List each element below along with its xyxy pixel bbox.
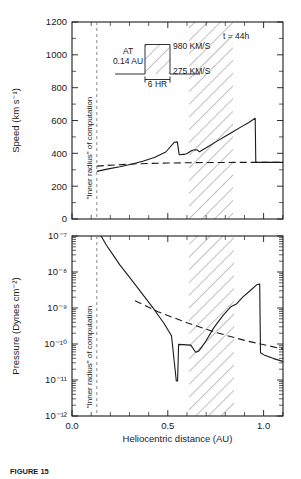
speed-ytick-6: 1200	[46, 16, 67, 27]
speed-y-tick-labels: 0 200 400 600 800 1000 1200	[46, 16, 67, 224]
speed-ytick-2: 400	[51, 148, 67, 159]
speed-ytick-4: 800	[51, 82, 67, 93]
pressure-ytick-4: 10⁻⁸	[47, 266, 67, 277]
speed-hatched-region	[189, 22, 233, 219]
pressure-y-ticks	[72, 236, 283, 416]
xtick-2: 1.0	[257, 420, 270, 431]
speed-axis-label: Speed (km s⁻¹)	[10, 88, 21, 153]
pressure-ytick-3: 10⁻⁹	[47, 302, 67, 313]
inner-radius-label-top: "Inner radius" of computation	[85, 97, 94, 200]
speed-ytick-0: 0	[62, 213, 67, 224]
pressure-axis-label: Pressure (Dynes cm⁻²)	[10, 277, 21, 374]
speed-ytick-5: 1000	[46, 49, 67, 60]
speed-ytick-3: 600	[51, 115, 67, 126]
pressure-hatched-region	[189, 236, 234, 416]
figure-svg: 0 200 400 600 800 1000 1200 Speed (km s⁻…	[0, 0, 301, 479]
speed-ytick-1: 200	[51, 181, 67, 192]
pressure-ytick-0: 10⁻¹²	[45, 410, 67, 421]
speed-panel: 0 200 400 600 800 1000 1200 Speed (km s⁻…	[10, 16, 283, 224]
figure-container: 0 200 400 600 800 1000 1200 Speed (km s⁻…	[0, 0, 301, 479]
time-annotation: t = 44h	[223, 31, 250, 41]
pressure-ytick-2: 10⁻¹⁰	[44, 338, 67, 349]
x-axis-label: Heliocentric distance (AU)	[123, 433, 233, 444]
xtick-0: 0.0	[65, 420, 78, 431]
xtick-1: 0.5	[161, 420, 174, 431]
inset-duration-label: 6 HR	[148, 79, 167, 89]
inset-peak-label: 980 KM/S	[173, 41, 211, 51]
pressure-x-ticks	[72, 236, 283, 416]
figure-caption: FIGURE 15	[10, 467, 49, 476]
pressure-ytick-5: 10⁻⁷	[48, 230, 68, 241]
inner-radius-label-bottom: "Inner radius" of computation	[85, 306, 94, 409]
pressure-panel: 10⁻¹² 10⁻¹¹ 10⁻¹⁰ 10⁻⁹ 10⁻⁸ 10⁻⁷ Pressur…	[10, 230, 283, 444]
pressure-plot-frame	[72, 236, 283, 416]
pressure-y-tick-labels: 10⁻¹² 10⁻¹¹ 10⁻¹⁰ 10⁻⁹ 10⁻⁸ 10⁻⁷	[44, 230, 67, 421]
x-tick-labels: 0.0 0.5 1.0	[65, 420, 270, 431]
inset-at-label: AT	[123, 46, 133, 56]
pressure-ytick-1: 10⁻¹¹	[45, 374, 67, 385]
inset-distance-label: 0.14 AU	[113, 56, 143, 66]
inset-base-label: 275 KM/S	[173, 66, 211, 76]
